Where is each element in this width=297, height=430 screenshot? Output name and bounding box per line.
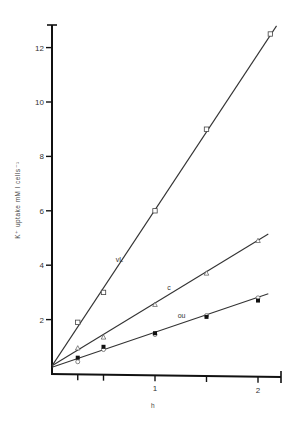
chart: 2468101212 vLcou h K⁺ uptake mM l cells⁻… [0, 0, 297, 430]
y-tick-label: 8 [40, 152, 45, 161]
marker-filled-square [102, 345, 106, 349]
x-tick-label: 2 [256, 386, 261, 395]
x-axis-title: h [151, 402, 155, 409]
series-label-c: c [167, 284, 171, 291]
fit-line-ou [52, 294, 268, 367]
data-points [75, 32, 272, 364]
y-tick-label: 10 [35, 98, 44, 107]
y-tick-label: 12 [35, 44, 44, 53]
fit-lines [52, 26, 277, 367]
x-axis [51, 374, 281, 377]
series-label-ou: ou [178, 312, 186, 319]
marker-open-triangle [75, 346, 80, 350]
marker-filled-square [256, 299, 260, 303]
fit-line-vL [52, 26, 277, 366]
marker-filled-square [205, 315, 209, 319]
marker-open-square [76, 320, 80, 324]
x-tick-label: 1 [153, 384, 158, 393]
series-labels: vLcou [116, 256, 186, 319]
marker-filled-square [153, 331, 157, 335]
y-tick-label: 6 [40, 207, 45, 216]
marker-open-circle [76, 360, 80, 364]
series-label-vL: vL [116, 256, 124, 263]
y-tick-label: 2 [40, 316, 45, 325]
y-axis-title: K⁺ uptake mM l cells⁻¹ [14, 161, 22, 239]
marker-open-square [101, 290, 105, 294]
fit-line-c [52, 234, 268, 366]
marker-open-square [153, 209, 157, 213]
axes: 2468101212 [35, 25, 281, 395]
marker-open-square [204, 127, 208, 131]
marker-filled-square [76, 356, 80, 360]
y-tick-label: 4 [40, 261, 45, 270]
marker-open-square [268, 32, 272, 36]
